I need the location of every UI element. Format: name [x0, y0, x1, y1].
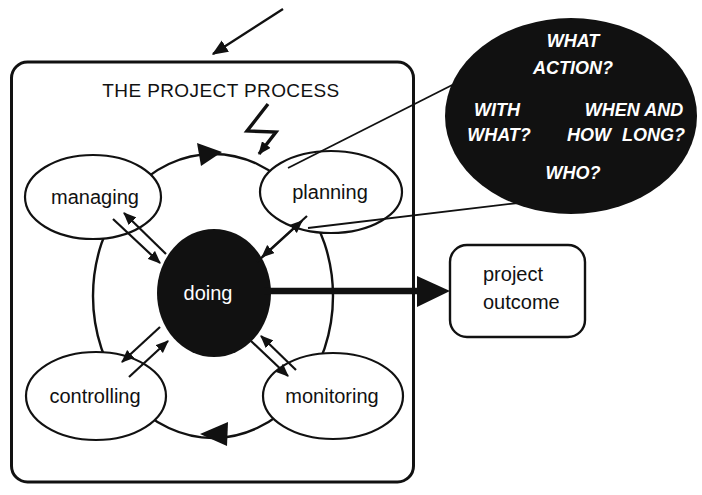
- outcome-label-line2: outcome: [483, 291, 560, 313]
- node-controlling-label: controlling: [49, 385, 140, 407]
- outcome-arrowhead-icon: [417, 276, 450, 307]
- question-who: WHO?: [546, 163, 601, 183]
- node-doing-label: doing: [184, 282, 233, 304]
- scanned-diagram-page: THE PROJECT PROCESS managing planning co…: [0, 0, 702, 495]
- question-what-action-line1: WHAT: [547, 31, 602, 51]
- outcome-label-line1: project: [483, 263, 543, 285]
- pointer-arrow: [213, 9, 283, 54]
- question-with-what-line2: WHAT?: [467, 125, 531, 145]
- question-what-action-line2: ACTION?: [532, 58, 613, 78]
- question-with-what-line1: WITH: [474, 100, 521, 120]
- node-planning-label: planning: [292, 181, 368, 203]
- process-box-title: THE PROJECT PROCESS: [102, 80, 339, 101]
- project-process-diagram: THE PROJECT PROCESS managing planning co…: [0, 0, 702, 495]
- question-when-long-line2: HOW LONG?: [567, 125, 685, 145]
- node-managing-label: managing: [51, 186, 139, 208]
- question-when-long-line1: WHEN AND: [585, 100, 683, 120]
- node-monitoring-label: monitoring: [285, 385, 378, 407]
